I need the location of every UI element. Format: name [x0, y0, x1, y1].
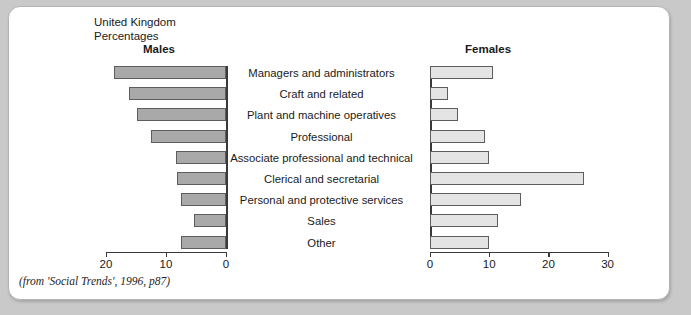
series-title-females: Females: [465, 43, 511, 55]
males-axis-tick-label: 0: [223, 258, 229, 270]
bar-female: [430, 66, 493, 79]
bar-male: [137, 108, 226, 121]
males-axis-tick-label: 20: [100, 258, 113, 270]
females-axis-tick: [430, 252, 431, 257]
category-label: Sales: [219, 215, 424, 227]
category-label: Other: [219, 237, 424, 249]
females-axis-tick: [489, 252, 490, 257]
males-axis-tick: [166, 252, 167, 257]
category-labels-panel: Managers and administratorsCraft and rel…: [219, 62, 424, 257]
category-label: Personal and protective services: [219, 194, 424, 206]
category-label: Associate professional and technical: [219, 152, 424, 164]
bar-male: [114, 66, 226, 79]
category-label: Plant and machine operatives: [219, 109, 424, 121]
bar-female: [430, 236, 489, 249]
females-axis-tick-label: 0: [427, 258, 433, 270]
category-label: Professional: [219, 131, 424, 143]
bar-female: [430, 87, 448, 100]
bar-female: [430, 172, 584, 185]
chart-plot-area: United Kingdom Percentages Males Females…: [9, 7, 669, 299]
figure-source-caption: (from 'Social Trends', 1996, p87): [19, 275, 170, 287]
bar-female: [430, 193, 521, 206]
females-axis-tick-label: 10: [483, 258, 496, 270]
figure-card: United Kingdom Percentages Males Females…: [8, 6, 670, 300]
bar-female: [430, 130, 485, 143]
females-category-axis: [430, 252, 609, 254]
females-axis-tick-label: 30: [601, 258, 614, 270]
bar-female: [430, 151, 489, 164]
series-title-males: Males: [143, 43, 175, 55]
chart-units-label: Percentages: [94, 30, 159, 42]
bar-male: [151, 130, 226, 143]
females-axis-tick: [548, 252, 549, 257]
females-axis-tick-label: 20: [542, 258, 555, 270]
males-axis-tick: [106, 252, 107, 257]
males-axis-tick-label: 10: [160, 258, 173, 270]
chart-region-label: United Kingdom: [94, 16, 176, 28]
bar-female: [430, 108, 458, 121]
category-label: Craft and related: [219, 88, 424, 100]
category-label: Managers and administrators: [219, 67, 424, 79]
bar-male: [129, 87, 226, 100]
bar-female: [430, 214, 498, 227]
category-label: Clerical and secretarial: [219, 173, 424, 185]
females-chart-panel: 0102030: [422, 62, 622, 257]
females-axis-tick: [608, 252, 609, 257]
males-chart-panel: 20100: [9, 62, 227, 257]
